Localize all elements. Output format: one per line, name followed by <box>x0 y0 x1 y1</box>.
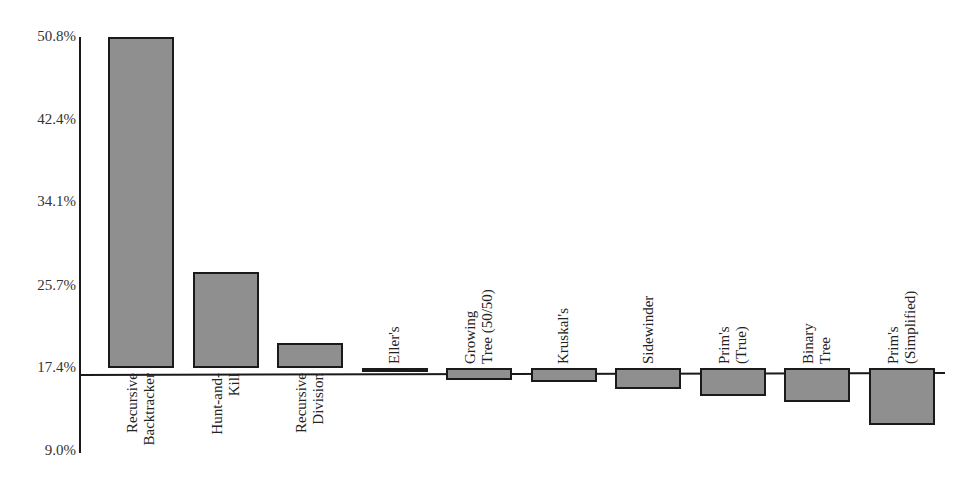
bar <box>700 368 766 396</box>
bar <box>615 368 681 389</box>
bar <box>108 37 174 368</box>
bar <box>193 272 259 368</box>
bar <box>531 368 597 382</box>
y-tick-label: 34.1% <box>6 193 76 210</box>
x-tick-label: Hunt-and- Kill <box>209 373 243 473</box>
x-tick-label: Recursive Division <box>293 373 327 473</box>
y-tick-label: 17.4% <box>6 359 76 376</box>
x-tick-label: Binary Tree <box>800 264 834 364</box>
bar-chart: 50.8%42.4%34.1%25.7%17.4%9.0% Recursive … <box>0 0 965 488</box>
x-tick-label: Eller's <box>386 264 403 364</box>
x-tick-label: Recursive Backtracker <box>124 373 158 473</box>
bar <box>784 368 850 403</box>
y-tick-label: 9.0% <box>6 442 76 459</box>
y-axis <box>79 37 81 453</box>
y-tick-label: 42.4% <box>6 111 76 128</box>
bar <box>277 343 343 368</box>
y-tick-label: 50.8% <box>6 28 76 45</box>
x-tick-label: Sidewinder <box>640 264 657 364</box>
bar <box>869 368 935 425</box>
bar <box>362 368 428 372</box>
x-tick-label: Growing Tree (50/50) <box>462 264 496 364</box>
x-tick-label: Prim's (True) <box>716 264 750 364</box>
bar <box>446 368 512 380</box>
x-tick-label: Kruskal's <box>555 264 572 364</box>
x-tick-label: Prim's (Simplified) <box>885 264 919 364</box>
y-tick-label: 25.7% <box>6 277 76 294</box>
